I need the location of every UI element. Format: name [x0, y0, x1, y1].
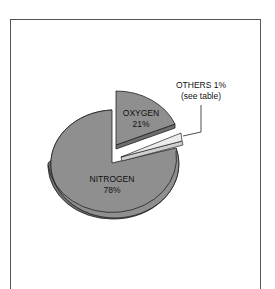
- others-leader-line: [183, 105, 201, 136]
- others-label: OTHERS 1%: [176, 80, 227, 90]
- nitrogen-label: NITROGEN: [90, 174, 135, 184]
- nitrogen-value: 78%: [103, 185, 120, 195]
- oxygen-label: OXYGEN: [123, 108, 159, 118]
- others-note: (see table): [181, 91, 221, 101]
- oxygen-value: 21%: [132, 119, 149, 129]
